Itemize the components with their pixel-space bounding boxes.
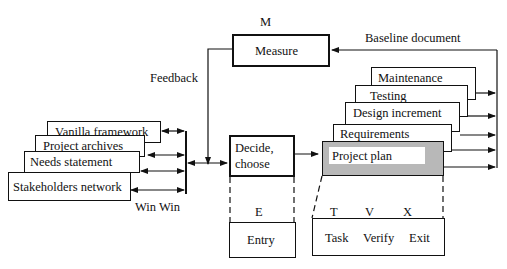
input-stakeholders-network: Stakeholders network <box>8 172 131 201</box>
entry-letter: E <box>255 206 263 219</box>
task-label: Task <box>325 232 348 245</box>
entry-box: Entry <box>229 222 296 258</box>
stack-project-plan: Project plan <box>322 141 444 176</box>
measure-letter: M <box>260 16 271 29</box>
decide-label-line1: Decide, <box>235 142 274 155</box>
exit-letter: X <box>403 206 412 219</box>
input-label: Stakeholders network <box>13 181 122 194</box>
feedback-label: Feedback <box>150 72 198 85</box>
baseline-document-label: Baseline document <box>365 32 460 45</box>
measure-box: Measure <box>232 34 330 67</box>
verify-label: Verify <box>363 232 394 245</box>
input-label: Needs statement <box>30 156 112 169</box>
stack-label: Requirements <box>340 128 409 141</box>
task-verify-exit-box: Task Verify Exit <box>312 218 445 256</box>
task-letter: T <box>330 206 338 219</box>
input-needs-statement: Needs statement <box>24 151 140 173</box>
stack-label: Maintenance <box>378 72 443 85</box>
project-plan-label-bg: Project plan <box>329 147 425 164</box>
exit-label: Exit <box>409 232 430 245</box>
verify-letter: V <box>365 206 374 219</box>
stack-label: Testing <box>370 90 407 103</box>
decide-label-line2: choose <box>235 158 270 171</box>
stack-label: Project plan <box>332 150 392 163</box>
win-win-label: Win Win <box>135 201 180 214</box>
entry-label: Entry <box>247 234 275 247</box>
decide-choose-box: Decide, choose <box>229 135 295 177</box>
stack-label: Design increment <box>353 107 442 120</box>
measure-label: Measure <box>255 45 298 58</box>
diagram-canvas: M Measure Baseline document Feedback Van… <box>0 0 507 269</box>
